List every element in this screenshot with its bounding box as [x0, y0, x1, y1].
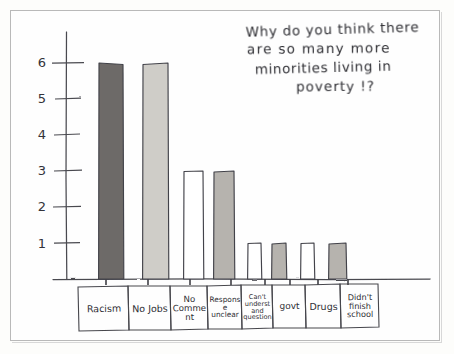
- category-label-govt: govt: [273, 286, 306, 328]
- y-tick-6: [52, 63, 84, 64]
- chart-screenshot: 1 2 3 4 5 6 Why do you think there are s…: [0, 0, 454, 354]
- bar-no-comment: [184, 171, 204, 279]
- bar-shading-6: [275, 248, 283, 276]
- bar-shading-4: [217, 176, 231, 276]
- y-tick-4: [54, 134, 80, 135]
- title-line-4: poverty !?: [222, 76, 448, 97]
- category-label-no-jobs: No Jobs: [129, 287, 171, 331]
- y-tick-3: [54, 170, 82, 171]
- category-label-no-comment: No Comment: [171, 287, 208, 330]
- category-label-racism: Racism: [79, 287, 130, 332]
- y-tick-label-2: 2: [30, 199, 46, 214]
- y-tick-1: [54, 243, 80, 244]
- y-tick-label-4: 4: [30, 127, 46, 142]
- category-label-cant-understand-question: Can't understand question: [242, 286, 273, 329]
- bar-can-t-understand-question: [248, 243, 262, 279]
- y-tick-label-1: 1: [30, 236, 46, 251]
- y-tick-2: [53, 206, 81, 207]
- bar-shading-8: [332, 248, 343, 276]
- y-tick-5: [55, 98, 81, 99]
- y-tick-label-3: 3: [30, 163, 46, 178]
- category-label-response-unclear: Response unclear: [208, 286, 242, 329]
- category-label-didnt-finish-school: Didn't finish school: [341, 285, 379, 327]
- bar-shading-2: [146, 68, 165, 276]
- y-tick-label-5: 5: [30, 91, 46, 106]
- chart-title: Why do you think there are so many more …: [221, 18, 448, 98]
- bar-shading-1: [102, 67, 120, 276]
- y-axis-line: [66, 32, 67, 279]
- category-label-drugs: Drugs: [306, 286, 341, 328]
- y-tick-label-6: 6: [30, 55, 46, 70]
- bar-drugs: [301, 243, 315, 279]
